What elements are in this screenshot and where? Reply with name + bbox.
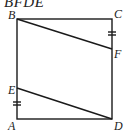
label-a: A: [7, 119, 16, 133]
label-f: F: [113, 47, 122, 61]
segment-ed: [17, 88, 112, 119]
label-e: E: [7, 83, 16, 97]
label-c: C: [114, 7, 123, 21]
label-b: B: [8, 8, 16, 22]
label-d: D: [113, 119, 123, 133]
segment-bf: [17, 19, 112, 49]
square-diagram: B C F E A D: [0, 0, 125, 134]
